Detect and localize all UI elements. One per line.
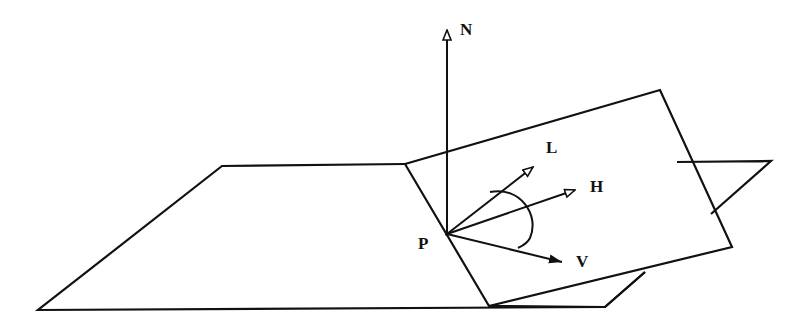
ground-plane-front-edge bbox=[489, 272, 645, 307]
view-vector-V bbox=[447, 234, 562, 262]
label-H: H bbox=[590, 177, 603, 196]
label-P: P bbox=[418, 234, 428, 253]
ground-plane bbox=[38, 161, 771, 310]
reflection-diagram: N L H V P bbox=[0, 0, 810, 327]
angle-arc bbox=[490, 191, 533, 248]
point-P-dot bbox=[445, 232, 449, 236]
tilted-plane bbox=[405, 90, 732, 306]
halfway-vector-H bbox=[447, 190, 575, 234]
light-vector-L bbox=[447, 167, 533, 234]
label-V: V bbox=[576, 252, 589, 271]
label-L: L bbox=[546, 138, 557, 157]
label-N: N bbox=[460, 20, 473, 39]
